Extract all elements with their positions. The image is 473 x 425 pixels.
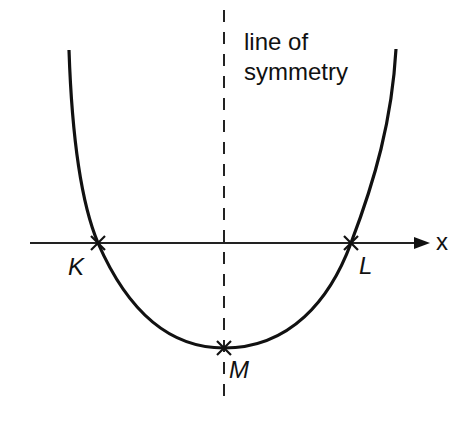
symmetry-label-line2: symmetry [244, 60, 348, 84]
symmetry-label-line1: line of [244, 30, 308, 54]
point-k-label: K [68, 255, 84, 279]
x-axis-arrow-icon [414, 237, 430, 249]
point-m-label: M [229, 358, 249, 382]
x-axis-label: x [436, 230, 448, 254]
point-l-label: L [359, 254, 372, 278]
parabola-curve [69, 49, 396, 348]
